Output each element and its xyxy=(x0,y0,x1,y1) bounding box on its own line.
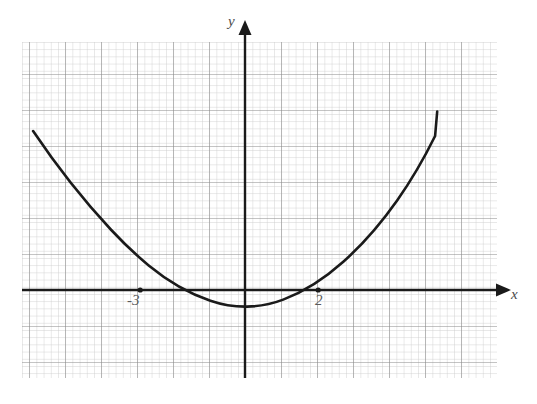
y-axis-label: y xyxy=(228,13,235,30)
x-intercept-label-left: -3 xyxy=(127,292,140,309)
graph-figure xyxy=(0,0,537,404)
x-axis-label: x xyxy=(511,286,518,303)
x-intercept-label-right: 2 xyxy=(315,292,323,309)
